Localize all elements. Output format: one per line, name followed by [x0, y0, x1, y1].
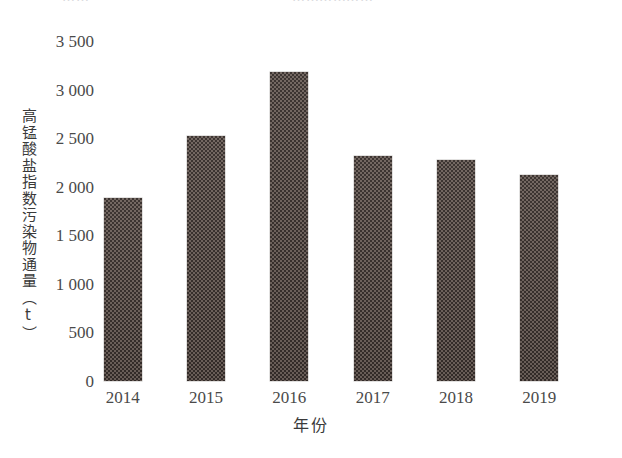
y-tick-label: 1 500	[34, 227, 94, 244]
bar-2014[interactable]	[104, 198, 142, 381]
y-tick-label: 2 000	[34, 179, 94, 196]
x-tick-label-2015: 2015	[166, 388, 246, 408]
x-axis-title: 年份	[0, 412, 622, 436]
plot-area	[100, 35, 600, 381]
x-tick-label-2018: 2018	[416, 388, 496, 408]
x-tick-label-2017: 2017	[333, 388, 413, 408]
bar-chart: 高锰酸盐指数污染物通量（t） 3 500 3 000 2 500 2 000 1…	[0, 0, 622, 458]
bar-2019[interactable]	[520, 175, 558, 381]
y-tick-label: 1 000	[34, 276, 94, 293]
bar-2016[interactable]	[270, 72, 308, 381]
y-tick-label: 3 500	[34, 33, 94, 50]
bar-2017[interactable]	[354, 156, 392, 381]
x-tick-label-2016: 2016	[249, 388, 329, 408]
y-tick-label: 2 500	[34, 130, 94, 147]
y-tick-label: 3 000	[34, 82, 94, 99]
bar-2015[interactable]	[187, 136, 225, 381]
y-tick-label: 500	[34, 324, 94, 341]
x-tick-label-2014: 2014	[83, 388, 163, 408]
x-tick-label-2019: 2019	[499, 388, 579, 408]
bar-2018[interactable]	[437, 160, 475, 381]
